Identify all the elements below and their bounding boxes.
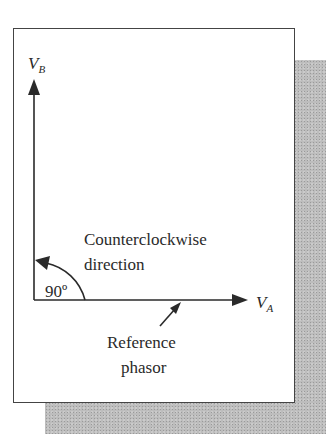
vb-label: VB — [28, 54, 45, 75]
phasor-diagram — [0, 0, 329, 447]
reference-label-line1: Reference — [107, 333, 176, 353]
va-label: VA — [256, 293, 273, 314]
angle-label: 90º — [45, 282, 67, 302]
rotation-label-line2: direction — [84, 255, 144, 275]
vertical-arrowhead-icon — [28, 79, 40, 95]
horizontal-arrowhead-icon — [232, 294, 248, 306]
rotation-label-line1: Counterclockwise — [84, 230, 207, 250]
reference-pointer-line — [160, 309, 175, 326]
reference-label-line2: phasor — [121, 358, 166, 378]
arc-arrowhead-icon — [35, 256, 50, 270]
